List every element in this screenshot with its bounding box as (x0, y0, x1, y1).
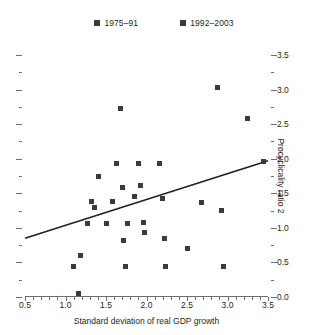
y-tick-minor (19, 141, 22, 142)
y-tick-minor (19, 107, 22, 108)
y-tick-minor (19, 245, 22, 246)
y-tick-label: 0.5 (277, 257, 289, 267)
y-tick-major (16, 159, 22, 160)
x-tick-label: 2.5 (181, 300, 193, 310)
x-axis-title: Standard deviation of real GDP growth (25, 316, 268, 326)
y-tick-minor (19, 72, 22, 73)
x-tick-minor (90, 297, 91, 300)
y-tick-minor (271, 280, 274, 281)
y-tick-label: 0.0 (277, 292, 289, 302)
legend-swatch-1992-2003 (180, 20, 186, 26)
y-tick-label: 3.0 (277, 85, 289, 95)
plot-area: 0.51.01.52.02.53.03.5 0.00.51.01.52.02.5… (25, 55, 268, 297)
y-tick-label: 1.0 (277, 223, 289, 233)
scatter-point (221, 264, 226, 269)
y-tick-minor (271, 107, 274, 108)
x-tick-label: 1.0 (60, 300, 72, 310)
x-tick-minor (155, 297, 156, 300)
procyclicality-scatter-figure: 1975–91 1992–2003 0.51.01.52.02.53.03.5 … (0, 0, 328, 335)
scatter-point (141, 220, 146, 225)
x-tick-label: 3.5 (262, 300, 274, 310)
x-tick-minor (252, 297, 253, 300)
legend-swatch-1975-91 (94, 20, 100, 26)
scatter-point (163, 264, 168, 269)
scatter-point (121, 238, 126, 243)
x-tick-minor (260, 297, 261, 300)
x-tick-minor (244, 297, 245, 300)
scatter-point (162, 236, 167, 241)
x-tick-minor (74, 297, 75, 300)
y-tick-minor (19, 211, 22, 212)
scatter-point (85, 221, 90, 226)
scatter-point (142, 230, 147, 235)
y-tick-major (16, 297, 22, 298)
y-tick-minor (271, 141, 274, 142)
scatter-point (114, 161, 119, 166)
scatter-point (120, 185, 125, 190)
scatter-point (76, 291, 81, 296)
x-tick-label: 1.5 (100, 300, 112, 310)
trend-line (25, 55, 268, 297)
x-tick-minor (236, 297, 237, 300)
legend-item-1975-91: 1975–91 (94, 18, 138, 28)
scatter-point (219, 208, 224, 213)
y-tick-label: 2.5 (277, 119, 289, 129)
x-tick-minor (130, 297, 131, 300)
scatter-point (89, 199, 94, 204)
x-tick-minor (98, 297, 99, 300)
x-tick-minor (211, 297, 212, 300)
x-tick-minor (163, 297, 164, 300)
y-tick-minor (19, 280, 22, 281)
chart-legend: 1975–91 1992–2003 (0, 18, 328, 28)
x-tick-minor (49, 297, 50, 300)
scatter-point (92, 205, 97, 210)
y-tick-minor (271, 211, 274, 212)
y-tick-major (16, 262, 22, 263)
scatter-point (157, 161, 162, 166)
scatter-point (185, 246, 190, 251)
x-tick-label: 3.0 (222, 300, 234, 310)
x-tick-label: 2.0 (141, 300, 153, 310)
x-tick-minor (203, 297, 204, 300)
x-tick-minor (171, 297, 172, 300)
x-tick-minor (179, 297, 180, 300)
scatter-point (118, 106, 123, 111)
y-tick-minor (271, 72, 274, 73)
x-tick-minor (219, 297, 220, 300)
scatter-point (138, 183, 143, 188)
y-tick-major (16, 193, 22, 194)
x-tick-minor (195, 297, 196, 300)
y-tick-minor (271, 176, 274, 177)
y-tick-major (16, 90, 22, 91)
x-tick-minor (33, 297, 34, 300)
scatter-point (261, 159, 266, 164)
legend-item-1992-2003: 1992–2003 (180, 18, 233, 28)
x-tick-minor (138, 297, 139, 300)
scatter-point (123, 264, 128, 269)
scatter-point (199, 200, 204, 205)
x-tick-minor (82, 297, 83, 300)
x-tick-minor (57, 297, 58, 300)
y-tick-minor (271, 245, 274, 246)
scatter-point (125, 221, 130, 226)
scatter-point (160, 196, 165, 201)
y-tick-major (16, 124, 22, 125)
scatter-point (132, 194, 137, 199)
scatter-point (104, 221, 109, 226)
y-tick-major (16, 55, 22, 56)
y-tick-label: 3.5 (277, 50, 289, 60)
y-tick-major (16, 228, 22, 229)
scatter-point (71, 264, 76, 269)
x-tick-minor (41, 297, 42, 300)
scatter-point (245, 116, 250, 121)
x-tick-label: 0.5 (19, 300, 31, 310)
scatter-point (110, 199, 115, 204)
scatter-point (78, 253, 83, 258)
legend-label-1992-2003: 1992–2003 (190, 18, 233, 28)
scatter-point (136, 161, 141, 166)
legend-label-1975-91: 1975–91 (104, 18, 138, 28)
x-tick-minor (114, 297, 115, 300)
scatter-point (96, 174, 101, 179)
scatter-point (215, 85, 220, 90)
x-tick-minor (122, 297, 123, 300)
